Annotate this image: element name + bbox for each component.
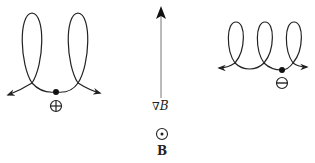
grad-b-drift-diagram: ∇B B xyxy=(0,0,315,163)
b-field-out-of-page-icon xyxy=(157,129,168,140)
negative-particle-trajectory xyxy=(219,22,307,70)
negative-particle-dot xyxy=(279,67,285,73)
positive-particle-dot xyxy=(53,89,59,95)
gradient-b-label: ∇B xyxy=(152,99,169,113)
positive-particle-trajectory xyxy=(8,13,100,95)
negative-charge-icon xyxy=(277,78,288,89)
positive-charge-icon xyxy=(51,101,62,112)
gradient-b-arrow xyxy=(156,6,166,98)
b-field-label: B xyxy=(157,144,167,158)
